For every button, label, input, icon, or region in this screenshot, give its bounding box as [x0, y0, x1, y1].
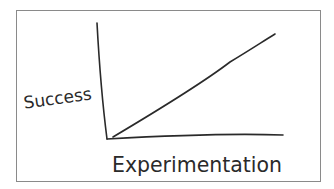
x-axis — [107, 134, 283, 139]
x-axis-label: Experimentation — [112, 152, 282, 177]
y-axis — [97, 23, 107, 139]
data-line — [113, 34, 275, 137]
chart-canvas: Success Experimentation — [0, 0, 334, 189]
y-axis-label: Success — [22, 83, 93, 112]
